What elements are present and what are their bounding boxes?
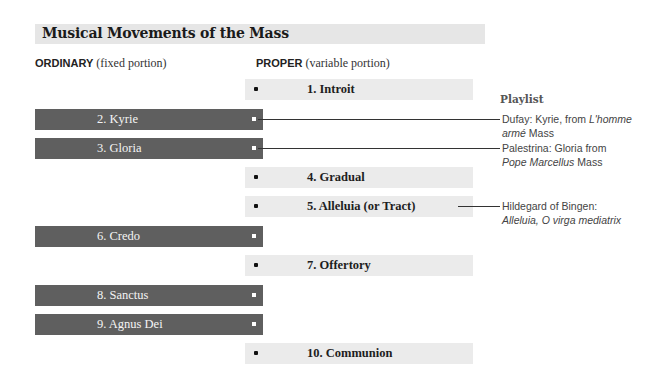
ordinary-row-credo: 6. Credo bbox=[35, 226, 263, 247]
bullet-icon bbox=[254, 204, 258, 208]
bullet-icon bbox=[252, 146, 256, 150]
note-text: Hildegard of Bingen: bbox=[502, 200, 597, 212]
note-italic: L'homme bbox=[589, 113, 632, 125]
note-italic: armé bbox=[502, 127, 526, 139]
row-label: 2. Kyrie bbox=[97, 112, 138, 127]
note-italic: Pope Marcellus bbox=[502, 156, 574, 168]
proper-row-introit: 1. Introit bbox=[245, 79, 473, 100]
ordinary-label: ORDINARY bbox=[35, 57, 93, 69]
bullet-icon bbox=[254, 263, 258, 267]
proper-row-alleluia: 5. Alleluia (or Tract) bbox=[245, 196, 473, 217]
row-label: 5. Alleluia (or Tract) bbox=[307, 199, 415, 214]
ordinary-header: ORDINARY (fixed portion) bbox=[35, 56, 167, 71]
row-label: 4. Gradual bbox=[307, 170, 365, 185]
diagram-title: Musical Movements of the Mass bbox=[42, 25, 289, 41]
note-text: Mass bbox=[574, 156, 602, 168]
proper-desc: (variable portion) bbox=[305, 56, 389, 70]
bullet-icon bbox=[252, 322, 256, 326]
bullet-icon bbox=[254, 175, 258, 179]
row-label: 8. Sanctus bbox=[97, 288, 148, 303]
ordinary-row-agnus-dei: 9. Agnus Dei bbox=[35, 314, 263, 335]
playlist-item-hildegard: Hildegard of Bingen:Alleluia, O virga me… bbox=[502, 199, 621, 227]
bullet-icon bbox=[252, 117, 256, 121]
note-text: Mass bbox=[526, 127, 554, 139]
row-label: 7. Offertory bbox=[307, 258, 371, 273]
playlist-title: Playlist bbox=[500, 93, 544, 105]
playlist-item-dufay: Dufay: Kyrie, from L'hommearmé Mass bbox=[502, 112, 632, 140]
bullet-icon bbox=[252, 234, 256, 238]
row-label: 9. Agnus Dei bbox=[97, 317, 163, 332]
row-label: 1. Introit bbox=[307, 82, 355, 97]
note-italic: Alleluia, O virga mediatrix bbox=[502, 214, 621, 226]
bullet-icon bbox=[254, 87, 258, 91]
proper-label: PROPER bbox=[256, 57, 302, 69]
proper-row-gradual: 4. Gradual bbox=[245, 167, 473, 188]
playlist-item-palestrina: Palestrina: Gloria fromPope Marcellus Ma… bbox=[502, 141, 606, 169]
connector-line-alleluia bbox=[458, 206, 500, 207]
ordinary-row-kyrie: 2. Kyrie bbox=[35, 109, 263, 130]
note-text: Palestrina: Gloria from bbox=[502, 142, 606, 154]
connector-line-kyrie bbox=[258, 119, 500, 120]
proper-row-communion: 10. Communion bbox=[245, 343, 473, 364]
ordinary-row-sanctus: 8. Sanctus bbox=[35, 285, 263, 306]
ordinary-row-gloria: 3. Gloria bbox=[35, 138, 263, 159]
row-label: 10. Communion bbox=[307, 346, 392, 361]
bullet-icon bbox=[254, 351, 258, 355]
ordinary-desc: (fixed portion) bbox=[96, 56, 166, 70]
row-label: 6. Credo bbox=[97, 229, 140, 244]
proper-header: PROPER (variable portion) bbox=[256, 56, 390, 71]
bullet-icon bbox=[252, 293, 256, 297]
note-text: Dufay: Kyrie, from bbox=[502, 113, 589, 125]
row-label: 3. Gloria bbox=[97, 141, 141, 156]
proper-row-offertory: 7. Offertory bbox=[245, 255, 473, 276]
connector-line-gloria bbox=[258, 148, 500, 149]
